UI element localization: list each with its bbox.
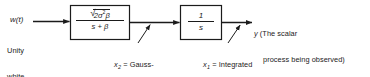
integrator-denominator: s (188, 23, 214, 32)
x2-pointer-line (138, 25, 150, 43)
input-description-line2: white (7, 73, 25, 77)
output-description-line2: process being observed) (254, 56, 345, 65)
shaping-filter-transfer-function: √ 2σ2β s + β (76, 9, 124, 30)
input-description: Unity white noise (7, 30, 25, 77)
x2-subscript: 2 (118, 64, 121, 70)
shaping-filter-denominator: s + β (76, 22, 124, 30)
integrator-numerator: 1 (188, 12, 214, 21)
x2-annotation: x2 = Gauss- Markov process (114, 44, 154, 77)
integrator-transfer-function: 1 s (188, 12, 214, 32)
radicand-tail: β (105, 11, 109, 20)
square-root-icon: √ 2σ2β (90, 9, 109, 19)
x1-pointer-line (228, 25, 240, 43)
x2-description-line1: Gauss- (130, 60, 154, 69)
output-description-line1: (The scalar (260, 29, 297, 38)
output-symbol: y (254, 29, 258, 38)
x2-equals: = (123, 60, 127, 69)
shaping-filter-numerator: √ 2σ2β (76, 9, 124, 20)
x2-annotation-line1: x2 = Gauss- (114, 61, 154, 70)
output-label: y (The scalar process being observed) (254, 13, 345, 77)
x1-equals: = (212, 60, 216, 69)
x1-subscript: 1 (207, 64, 210, 70)
fraction-bar (188, 21, 214, 22)
x1-description-line1: Integrated (219, 60, 253, 69)
block-diagram: w(t) Unity white noise √ 2σ2β s + β 1 s … (0, 0, 370, 77)
output-line1: y (The scalar (254, 30, 345, 39)
input-description-line1: Unity (7, 47, 25, 56)
input-signal-label: w(t) (10, 16, 24, 25)
